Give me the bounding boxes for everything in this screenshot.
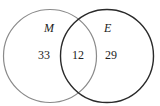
venn-diagram: M E 33 12 29 [0, 0, 160, 106]
intersection-count: 12 [72, 48, 84, 62]
set-e-only-count: 29 [105, 48, 117, 62]
set-e-label: E [103, 21, 112, 35]
set-m-only-count: 33 [38, 48, 50, 62]
set-m-label: M [43, 21, 55, 35]
